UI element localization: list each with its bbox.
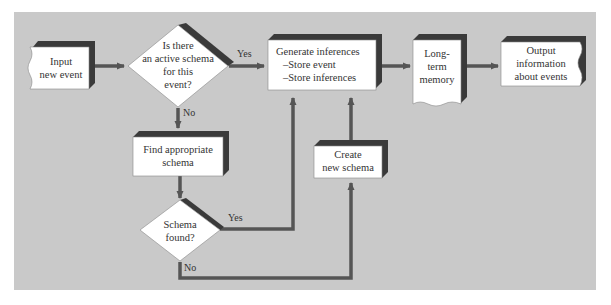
create-label: Create new schema [314,148,382,174]
generate-label: Generate inferences –Store event –Store … [276,45,376,84]
output-line2: information [503,57,579,70]
edge-label-found-no: No [184,262,196,273]
ltm-line3: memory [413,73,461,86]
decision-active-label: Is there an active schema for this event… [128,39,228,91]
decision-active-line1: Is there [128,39,228,52]
input-event-label: Input new event [33,55,89,81]
decision-active-line4: event? [128,78,228,91]
ltm-label: Long- term memory [413,47,461,86]
generate-line1: Generate inferences [276,45,376,58]
create-line2: new schema [314,161,382,174]
input-label-line2: new event [33,68,89,81]
find-line2: schema [133,156,223,169]
decision-active-line2: an active schema [128,52,228,65]
output-label: Output information about events [503,44,579,83]
decision-active-line3: for this [128,65,228,78]
ltm-line1: Long- [413,47,461,60]
edge-label-found-yes: Yes [228,212,243,223]
found-label: Schema found? [145,218,215,244]
output-line1: Output [503,44,579,57]
generate-line3: –Store inferences [276,71,376,84]
found-line1: Schema [145,218,215,231]
edge-label-active-no: No [183,107,195,118]
find-line1: Find appropriate [133,143,223,156]
input-label-line1: Input [33,55,89,68]
found-line2: found? [145,231,215,244]
output-line3: about events [503,70,579,83]
find-label: Find appropriate schema [133,143,223,169]
arrow-found-yes-to-generate [220,98,293,229]
edge-label-active-yes: Yes [237,48,252,59]
generate-line2: –Store event [276,58,376,71]
ltm-line2: term [413,60,461,73]
create-line1: Create [314,148,382,161]
